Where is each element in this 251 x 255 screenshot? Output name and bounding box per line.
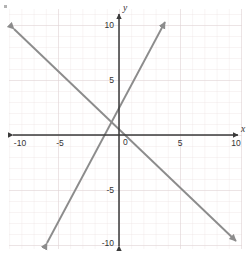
y-tick-label: -10 — [102, 238, 115, 248]
y-tick-label: 10 — [105, 20, 115, 30]
y-axis-label: y — [122, 3, 128, 13]
coordinate-plane-figure: -10 -5 5 10 10 5 -5 -10 0 x y — [0, 0, 251, 255]
origin-label: 0 — [123, 137, 128, 147]
corner-artifact-mark — [4, 5, 7, 8]
x-tick-label: -10 — [14, 138, 27, 148]
y-tick-label: 5 — [109, 75, 114, 85]
graph-canvas: -10 -5 5 10 10 5 -5 -10 0 x y — [0, 0, 251, 255]
x-tick-label: 5 — [178, 138, 183, 148]
x-tick-label: -5 — [56, 138, 64, 148]
y-tick-label: -5 — [106, 185, 114, 195]
x-axis-label: x — [240, 124, 246, 134]
x-tick-label: 10 — [231, 138, 241, 148]
